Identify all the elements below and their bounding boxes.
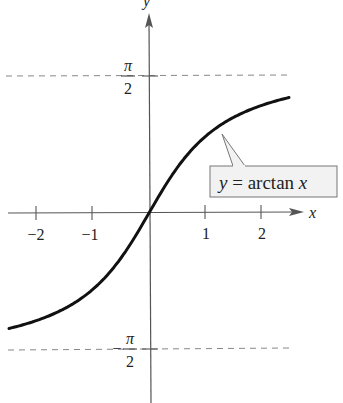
y-axis-label: y [141,0,151,10]
x-tick-label-neg2: −2 [27,226,44,243]
callout-pointer [222,134,245,166]
svg-text:π: π [124,57,133,74]
x-tick-label-neg1: −1 [81,226,98,243]
arctan-chart: x y −2 −1 1 2 π 2 − π 2 y = arctan x [0,0,343,403]
x-tick-label-1: 1 [202,225,210,242]
y-tick-label-pi-over-2: π 2 [121,57,135,97]
function-label-callout: y = arctan x [210,134,337,197]
svg-text:2: 2 [124,80,132,97]
svg-text:π: π [126,330,135,347]
svg-text:−: − [112,340,121,357]
x-tick-label-2: 2 [258,225,266,242]
x-axis [8,212,298,213]
svg-text:2: 2 [126,353,134,370]
y-tick-label-neg-pi-over-2: − π 2 [112,330,137,370]
function-label: y = arctan x [217,172,308,193]
x-axis-label: x [308,204,316,221]
